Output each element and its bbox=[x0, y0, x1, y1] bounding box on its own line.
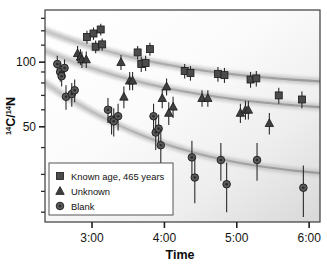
data-marker-square bbox=[83, 33, 90, 40]
legend-item-square[interactable]: Known age, 465 years bbox=[57, 171, 165, 182]
marker-center-dot bbox=[56, 63, 59, 66]
data-marker-square bbox=[298, 96, 305, 103]
y-title-end: N bbox=[4, 97, 18, 106]
marker-center-dot bbox=[152, 115, 155, 118]
marker-center-dot bbox=[107, 108, 110, 111]
data-marker-square bbox=[99, 41, 106, 48]
data-marker-square bbox=[134, 49, 141, 56]
marker-center-dot bbox=[73, 89, 76, 92]
y-tick-label: 100 bbox=[16, 55, 36, 69]
data-marker-square bbox=[221, 72, 228, 79]
data-marker-square bbox=[146, 46, 153, 53]
marker-center-dot bbox=[60, 75, 63, 78]
legend-label: Known age, 465 years bbox=[71, 171, 165, 182]
x-tick-label: 3:00 bbox=[80, 231, 104, 245]
marker-center-dot bbox=[157, 127, 160, 130]
marker-center-dot bbox=[302, 186, 305, 189]
data-marker-square bbox=[57, 173, 64, 180]
marker-center-dot bbox=[117, 115, 120, 118]
data-marker-square bbox=[90, 30, 97, 37]
marker-center-dot bbox=[63, 67, 66, 70]
x-axis-title: Time bbox=[166, 248, 195, 262]
marker-center-dot bbox=[194, 176, 197, 179]
figure: 50100 3:004:005:006:00 Time 14C/14N Know… bbox=[0, 0, 327, 266]
data-marker-square bbox=[142, 60, 149, 67]
marker-center-dot bbox=[256, 159, 259, 162]
y-title-mid: C/ bbox=[4, 114, 18, 127]
legend-label: Blank bbox=[71, 201, 95, 212]
x-tick-label: 4:00 bbox=[153, 231, 177, 245]
x-tick-label: 5:00 bbox=[225, 231, 249, 245]
marker-center-dot bbox=[112, 120, 115, 123]
marker-center-dot bbox=[65, 95, 68, 98]
x-axis: 3:004:005:006:00 bbox=[80, 222, 321, 245]
y-axis: 50100 bbox=[16, 18, 45, 212]
marker-center-dot bbox=[191, 156, 194, 159]
data-marker-square bbox=[92, 43, 99, 50]
marker-center-dot bbox=[159, 144, 162, 147]
x-tick-label: 6:00 bbox=[297, 231, 321, 245]
data-marker-square bbox=[97, 26, 104, 33]
data-marker-square bbox=[275, 92, 282, 99]
marker-center-dot bbox=[59, 205, 62, 208]
y-tick-label: 50 bbox=[23, 120, 37, 134]
data-marker-square bbox=[187, 70, 194, 77]
legend[interactable]: Known age, 465 yearsUnknownBlank bbox=[49, 163, 173, 215]
data-marker-square bbox=[253, 75, 260, 82]
svg-text:14C/14N: 14C/14N bbox=[4, 97, 18, 135]
marker-center-dot bbox=[220, 159, 223, 162]
chart-canvas: 50100 3:004:005:006:00 Time 14C/14N Know… bbox=[0, 0, 327, 266]
y-axis-title: 14C/14N bbox=[4, 97, 18, 135]
data-marker-square bbox=[214, 71, 221, 78]
marker-center-dot bbox=[225, 183, 228, 186]
legend-label: Unknown bbox=[71, 186, 110, 197]
